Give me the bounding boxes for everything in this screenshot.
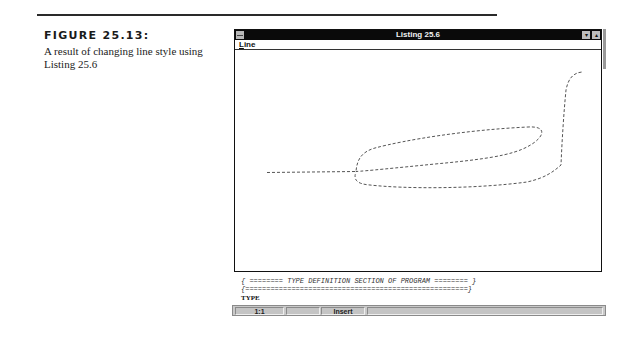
status-cursor-position: 1:1 bbox=[235, 307, 284, 315]
status-message bbox=[367, 307, 603, 315]
figure-caption: A result of changing line style using Li… bbox=[44, 45, 214, 71]
minimize-button[interactable]: ▾ bbox=[582, 31, 590, 39]
maximize-button[interactable]: ▴ bbox=[592, 31, 600, 39]
title-bar[interactable]: Listing 25.6 ▾ ▴ bbox=[235, 30, 601, 40]
app-window: Listing 25.6 ▾ ▴ Line bbox=[234, 29, 602, 272]
scrollbar-edge[interactable] bbox=[603, 29, 606, 69]
figure-title: FIGURE 25.13: bbox=[44, 29, 149, 42]
menu-bar: Line bbox=[235, 40, 601, 50]
drawing-canvas[interactable] bbox=[235, 50, 601, 271]
dashed-line-drawing bbox=[235, 50, 600, 271]
status-bar: 1:1 Insert bbox=[232, 305, 606, 316]
code-line: {=======================================… bbox=[241, 285, 472, 293]
top-rule bbox=[37, 14, 497, 16]
menu-line[interactable]: Line bbox=[239, 40, 255, 49]
maximize-icon: ▴ bbox=[592, 31, 600, 39]
window-title: Listing 25.6 bbox=[235, 30, 601, 40]
minimize-icon: ▾ bbox=[582, 31, 590, 39]
code-line: { ======== TYPE DEFINITION SECTION OF PR… bbox=[241, 277, 476, 285]
status-insert-mode: Insert bbox=[321, 307, 365, 315]
code-line: TYPE bbox=[241, 294, 260, 302]
status-blank bbox=[286, 307, 320, 315]
